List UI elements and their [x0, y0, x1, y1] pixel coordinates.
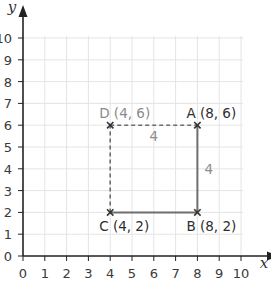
x-tick-label: 0: [19, 266, 27, 281]
x-axis-name: x: [260, 254, 269, 272]
coordinate-grid-diagram: xy 012345678910012345678910 44 A (8, 6)B…: [0, 0, 271, 289]
y-tick-label: 8: [4, 75, 12, 90]
x-tick-label: 1: [41, 266, 49, 281]
y-tick-label: 4: [4, 162, 12, 177]
y-tick-label: 1: [4, 227, 12, 242]
point-label-b: B (8, 2): [186, 218, 236, 234]
y-tick-label: 9: [4, 53, 12, 68]
x-tick-label: 9: [215, 266, 223, 281]
x-tick-label: 8: [193, 266, 201, 281]
length-label-da: 4: [150, 128, 159, 144]
y-tick-label: 6: [4, 118, 12, 133]
point-label-a: A (8, 6): [186, 105, 236, 121]
x-tick-label: 10: [233, 266, 250, 281]
tick-labels: 012345678910012345678910: [0, 31, 249, 281]
y-tick-label: 10: [0, 31, 12, 46]
y-axis-arrow-icon: [19, 5, 28, 17]
x-tick-label: 7: [171, 266, 179, 281]
y-tick-label: 7: [4, 96, 12, 111]
y-tick-label: 5: [4, 140, 12, 155]
x-tick-label: 3: [84, 266, 92, 281]
y-tick-label: 2: [4, 205, 12, 220]
x-tick-label: 5: [128, 266, 136, 281]
point-label-c: C (4, 2): [99, 218, 149, 234]
length-label-ab: 4: [204, 161, 213, 177]
x-tick-label: 6: [150, 266, 158, 281]
y-tick-label: 0: [4, 249, 12, 264]
point-label-d: D (4, 6): [99, 105, 150, 121]
x-tick-label: 2: [62, 266, 70, 281]
y-tick-label: 3: [4, 184, 12, 199]
y-axis-name: y: [7, 0, 17, 16]
x-tick-label: 4: [106, 266, 114, 281]
